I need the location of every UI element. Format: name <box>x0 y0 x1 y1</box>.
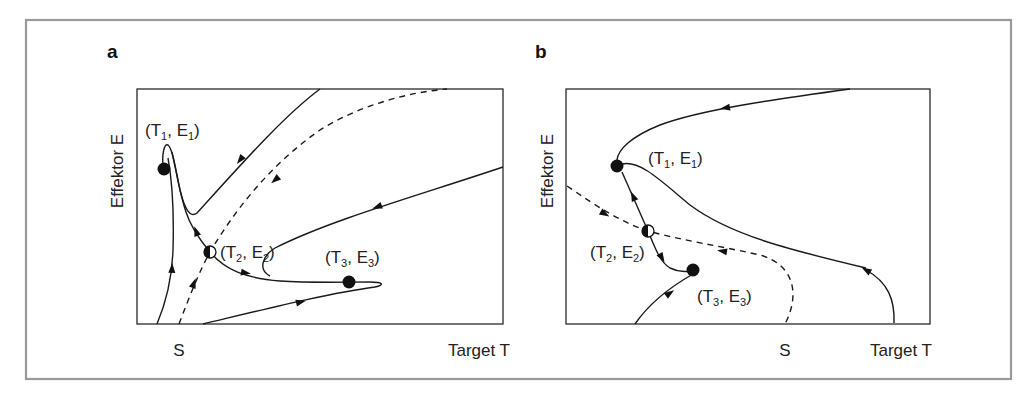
separatrix-a <box>179 89 447 324</box>
panel-a-y-axis-label: Effektor E <box>108 134 127 208</box>
arrow-icon <box>719 104 730 113</box>
trajectory-left-up <box>157 158 173 324</box>
panel-a-x-tick-s: S <box>173 341 184 360</box>
arrow-icon <box>628 190 638 202</box>
manifold-t2-up <box>172 152 210 252</box>
trajectory-right-lower-b <box>866 270 894 323</box>
label-t1-e1-b: (T1, E1) <box>648 149 703 170</box>
arrow-icon <box>716 247 727 256</box>
panel-b-x-axis-label: Target T <box>870 341 932 360</box>
phase-portrait-figure: a Effektor E S Target T <box>0 0 1035 399</box>
panel-a-letter: a <box>107 41 118 62</box>
panel-b-letter: b <box>535 41 547 62</box>
trajectory-top <box>163 89 320 214</box>
panel-b-x-tick-s: S <box>779 341 790 360</box>
trajectory-right <box>263 167 503 276</box>
saddle-point-t2-e2 <box>204 246 216 258</box>
arrow-icon <box>234 154 246 166</box>
label-t1-e1: (T1, E1) <box>145 121 200 142</box>
label-t2-e2-b: (T2, E2) <box>590 243 645 264</box>
label-t3-e3-b: (T3, E3) <box>697 287 752 308</box>
panel-b-y-axis-label: Effektor E <box>538 134 557 208</box>
stable-point-t3-e3-b <box>687 264 700 277</box>
label-t3-e3: (T3, E3) <box>325 248 380 269</box>
arrow-icon <box>269 174 281 186</box>
trajectory-bottom-b <box>635 274 693 324</box>
stable-point-t1-e1-b <box>611 160 624 173</box>
saddle-point-t2-e2-b <box>642 225 654 237</box>
manifold-t2-to-t3-b <box>648 231 690 272</box>
label-t2-e2: (T2, E2) <box>220 243 275 264</box>
trajectory-right-b <box>622 163 866 268</box>
figure-frame <box>26 20 1011 379</box>
panel-b: b Effektor E S Target T ( <box>535 41 932 360</box>
arrow-icon <box>168 263 175 273</box>
arrow-icon <box>295 297 306 306</box>
panel-a-plot-area <box>137 89 503 324</box>
arrow-icon <box>860 264 872 275</box>
stable-point-t1-e1 <box>158 163 171 176</box>
panel-a: a Effektor E S Target T <box>107 41 510 360</box>
stable-point-t3-e3 <box>343 276 356 289</box>
panel-a-x-axis-label: Target T <box>448 341 510 360</box>
arrow-icon <box>371 202 383 212</box>
